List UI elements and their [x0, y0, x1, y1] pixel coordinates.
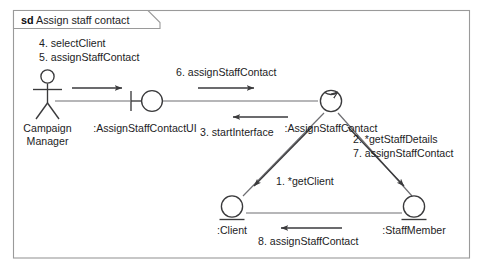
- message-label-7: 7. assignStaffContact: [353, 147, 454, 159]
- message-label-2: 2. *getStaffDetails: [353, 133, 438, 145]
- frame-name-label: Assign staff contact: [36, 14, 129, 26]
- message-label-4: 4. selectClient: [39, 37, 106, 49]
- message-label-8: 8. assignStaffContact: [258, 235, 359, 247]
- client-label: :Client: [217, 224, 247, 236]
- message-label-6: 6. assignStaffContact: [176, 66, 277, 78]
- message-label-1: 1. *getClient: [276, 175, 334, 187]
- control-icon: [320, 90, 341, 111]
- message-label-5: 5. assignStaffContact: [39, 51, 140, 63]
- actor-label-line2: Manager: [27, 135, 69, 147]
- staffmember-label: :StaffMember: [382, 224, 446, 236]
- frame-kind-label: sd: [21, 14, 34, 26]
- actor-label-line1: Campaign: [23, 122, 71, 134]
- boundary-label: :AssignStaffContactUI: [93, 122, 196, 134]
- diagram-canvas: sd Assign staff contact: [0, 0, 483, 275]
- message-label-3: 3. startInterface: [200, 126, 274, 138]
- control-label: :AssignStaffContact: [285, 122, 378, 134]
